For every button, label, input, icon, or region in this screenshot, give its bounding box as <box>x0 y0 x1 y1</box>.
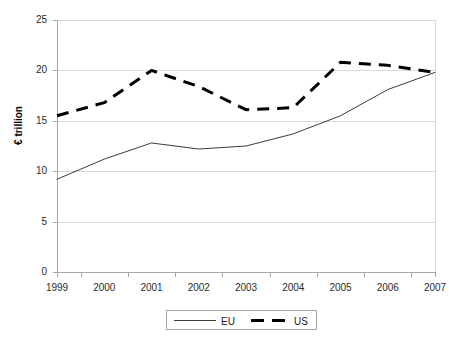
chart-container: € trillion 0510152025 199920002001200220… <box>0 0 449 340</box>
series-line-eu <box>57 72 435 179</box>
legend-label-eu: EU <box>221 316 235 327</box>
chart-legend: EU US <box>166 310 317 330</box>
legend-swatch-solid-line-icon <box>174 316 216 326</box>
legend-swatch-dashed-line-icon <box>247 316 289 326</box>
legend-label-us: US <box>294 316 308 327</box>
plot-frame <box>58 21 436 273</box>
legend-item-eu: EU <box>174 311 235 331</box>
plot-area <box>0 0 449 340</box>
legend-item-us: US <box>247 311 308 331</box>
